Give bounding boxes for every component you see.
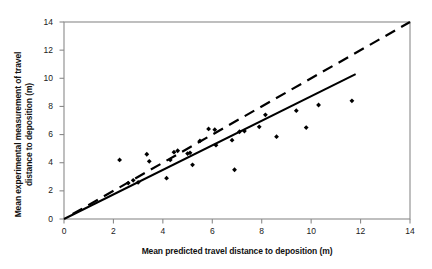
data-point bbox=[263, 112, 268, 117]
data-point bbox=[230, 138, 235, 143]
x-tick-label: 8 bbox=[251, 226, 273, 236]
data-point bbox=[131, 178, 136, 183]
y-tick-label: 14 bbox=[31, 17, 53, 27]
data-point bbox=[206, 127, 211, 132]
data-point bbox=[147, 159, 152, 164]
x-tick-label: 6 bbox=[201, 226, 223, 236]
data-point bbox=[117, 158, 122, 163]
data-point bbox=[316, 103, 321, 108]
data-point bbox=[232, 167, 237, 172]
data-point bbox=[144, 152, 149, 157]
x-tick-label: 2 bbox=[102, 226, 124, 236]
data-points bbox=[117, 98, 354, 185]
data-point bbox=[304, 125, 309, 130]
y-tick-label: 10 bbox=[31, 73, 53, 83]
one-to-one-line bbox=[73, 22, 410, 214]
data-point bbox=[294, 108, 299, 113]
data-point bbox=[350, 98, 355, 103]
y-tick-label: 8 bbox=[31, 101, 53, 111]
regression-line bbox=[64, 74, 356, 219]
x-tick-label: 0 bbox=[53, 226, 75, 236]
y-tick-label: 4 bbox=[31, 157, 53, 167]
x-tick-label: 14 bbox=[399, 226, 421, 236]
y-tick-label: 2 bbox=[31, 185, 53, 195]
x-tick-label: 4 bbox=[152, 226, 174, 236]
x-tick-label: 10 bbox=[300, 226, 322, 236]
data-point bbox=[126, 181, 131, 186]
trend-lines bbox=[64, 22, 410, 219]
chart-figure: Mean experimental measurement of travel … bbox=[0, 0, 432, 269]
x-tick-label: 12 bbox=[350, 226, 372, 236]
y-tick-label: 12 bbox=[31, 45, 53, 55]
y-tick-label: 6 bbox=[31, 129, 53, 139]
y-tick-label: 0 bbox=[31, 214, 53, 224]
data-point bbox=[164, 176, 169, 181]
data-point bbox=[274, 134, 279, 139]
data-point bbox=[257, 124, 262, 129]
data-point bbox=[190, 162, 195, 167]
